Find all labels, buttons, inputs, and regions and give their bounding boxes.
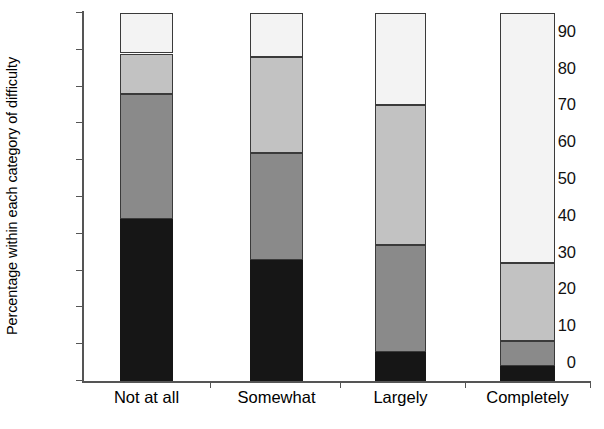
bar-largely[interactable] [375, 13, 426, 381]
bar-segment-segment-1-black[interactable] [375, 352, 426, 381]
bar-segment-segment-1-black[interactable] [250, 260, 303, 381]
bar-segment-segment-4-white[interactable] [500, 13, 555, 263]
x-axis-tick [590, 381, 591, 388]
bar-segment-segment-4-white[interactable] [375, 13, 426, 105]
y-axis-tick [76, 233, 82, 234]
y-axis-title: Percentage within each category of diffi… [0, 0, 24, 392]
y-axis-tick [76, 49, 82, 50]
bar-segment-segment-1-black[interactable] [500, 366, 555, 381]
x-axis-label-completely: Completely [486, 388, 569, 407]
y-axis-tick [76, 159, 82, 160]
x-axis-line [82, 381, 591, 383]
bar-segment-segment-2-dark-gray[interactable] [375, 245, 426, 352]
y-axis-tick [76, 380, 82, 381]
bar-segment-segment-4-white[interactable] [250, 13, 303, 57]
y-axis-tick [76, 196, 82, 197]
x-axis-tick [210, 381, 211, 388]
x-axis-tick [465, 381, 466, 388]
stacked-bar-chart: Percentage within each category of diffi… [0, 0, 604, 429]
y-axis-tick [76, 306, 82, 307]
x-axis-label-somewhat: Somewhat [238, 388, 316, 407]
bar-completely[interactable] [500, 13, 555, 381]
bar-somewhat[interactable] [250, 13, 303, 381]
bar-segment-segment-4-white[interactable] [120, 13, 173, 53]
y-axis-tick [76, 86, 82, 87]
bar-segment-segment-3-light-gray[interactable] [250, 57, 303, 153]
bar-segment-segment-2-dark-gray[interactable] [500, 341, 555, 367]
y-axis-tick [76, 270, 82, 271]
bar-segment-segment-1-black[interactable] [120, 219, 173, 381]
x-axis-label-largely: Largely [373, 388, 427, 407]
y-axis-tick [76, 343, 82, 344]
y-axis-title-text: Percentage within each category of diffi… [4, 57, 20, 335]
plot-area: 0102030405060708090100 [82, 13, 590, 381]
bar-segment-segment-3-light-gray[interactable] [500, 263, 555, 340]
x-axis-label-not-at-all: Not at all [114, 388, 179, 407]
y-axis-tick-label: 100 [506, 0, 576, 4]
bar-segment-segment-3-light-gray[interactable] [120, 54, 173, 94]
bar-not-at-all[interactable] [120, 13, 173, 381]
y-axis-tick [76, 122, 82, 123]
bar-segment-segment-2-dark-gray[interactable] [120, 94, 173, 219]
x-axis-tick [340, 381, 341, 388]
y-axis-tick [76, 12, 82, 13]
bar-segment-segment-3-light-gray[interactable] [375, 105, 426, 245]
bar-segment-segment-2-dark-gray[interactable] [250, 153, 303, 260]
